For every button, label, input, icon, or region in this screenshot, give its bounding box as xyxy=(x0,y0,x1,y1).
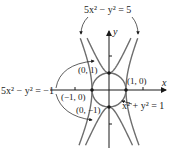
x-axis-label: x xyxy=(161,77,167,88)
label-point-0-neg1: (0, −1) xyxy=(76,105,101,115)
hyperbola-5x2-y2-eq-5-right-branch xyxy=(126,38,139,145)
pointer-arrow-eq5-right xyxy=(132,17,138,34)
label-circle: x² + y² = 1 xyxy=(122,100,164,111)
label-point-1-0: (1, 0) xyxy=(127,76,147,86)
point-1-0 xyxy=(124,88,128,92)
y-axis-label: y xyxy=(112,26,118,37)
diagram-canvas: y x (0, 1) (1, 0) (−1, 0) (0, −1) 5x² − … xyxy=(0,0,183,152)
label-point-neg1-0: (−1, 0) xyxy=(61,92,86,102)
point-0-1 xyxy=(107,71,111,75)
label-hyperbola-eq-neg1: 5x² − y² = −1 xyxy=(1,85,54,96)
label-hyperbola-eq-5: 5x² − y² = 5 xyxy=(84,4,131,15)
label-point-0-1: (0, 1) xyxy=(78,65,98,75)
hyperbola-circle-diagram: y x (0, 1) (1, 0) (−1, 0) (0, −1) 5x² − … xyxy=(0,0,183,152)
pointer-arrow-eq5-left xyxy=(81,17,88,34)
point-0-neg1 xyxy=(107,105,111,109)
point-neg1-0 xyxy=(90,88,94,92)
